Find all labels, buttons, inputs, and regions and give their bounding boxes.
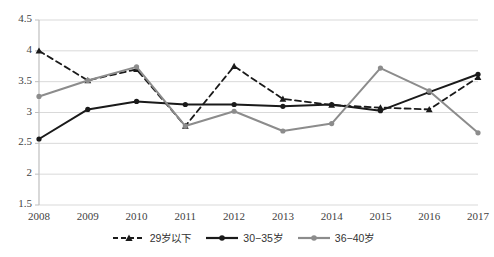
legend-item-1[interactable]: 29岁以下 — [112, 230, 192, 245]
x-tick-label-2009: 2009 — [62, 210, 114, 222]
data-point — [183, 102, 188, 107]
x-tick-label-2014: 2014 — [306, 210, 358, 222]
legend-swatch-1 — [112, 232, 146, 244]
legend-item-2[interactable]: 30−35岁 — [205, 230, 283, 245]
data-point — [85, 107, 90, 112]
legend-swatch-2 — [205, 232, 239, 244]
y-tick-label: 4 — [0, 43, 32, 55]
legend-marker — [311, 235, 317, 241]
data-point — [427, 88, 432, 93]
legend-label: 30−35岁 — [243, 230, 283, 245]
data-point — [378, 66, 383, 71]
y-tick-label: 4.5 — [0, 12, 32, 24]
legend-label: 29岁以下 — [150, 230, 192, 245]
data-point — [36, 136, 41, 141]
data-point — [280, 104, 285, 109]
x-tick-label-2017: 2017 — [452, 210, 494, 222]
data-point — [134, 99, 139, 104]
data-point — [475, 72, 480, 77]
data-point — [475, 130, 480, 135]
data-point — [329, 102, 334, 107]
data-point — [85, 78, 90, 83]
legend-item-3[interactable]: 36−40岁 — [297, 230, 375, 245]
y-tick-label: 1.5 — [0, 197, 32, 209]
data-point — [280, 128, 285, 133]
y-tick-label: 3 — [0, 105, 32, 117]
data-point — [329, 121, 334, 126]
x-tick-label-2008: 2008 — [13, 210, 65, 222]
x-tick-label-2013: 2013 — [257, 210, 309, 222]
x-tick-label-2012: 2012 — [208, 210, 260, 222]
legend-swatch-3 — [297, 232, 331, 244]
x-tick-label-2015: 2015 — [354, 210, 406, 222]
series-line-1 — [39, 51, 478, 126]
y-tick-label: 2 — [0, 166, 32, 178]
data-point — [183, 123, 188, 128]
legend-marker — [220, 235, 226, 241]
chart-legend: 29岁以下30−35岁36−40岁 — [0, 230, 486, 245]
y-tick-label: 2.5 — [0, 135, 32, 147]
data-point — [232, 109, 237, 114]
x-tick-label-2011: 2011 — [159, 210, 211, 222]
y-tick-label: 3.5 — [0, 74, 32, 86]
data-point — [231, 63, 238, 69]
data-point — [378, 108, 383, 113]
data-point — [36, 94, 41, 99]
x-tick-label-2016: 2016 — [403, 210, 455, 222]
data-point — [134, 64, 139, 69]
x-tick-label-2010: 2010 — [111, 210, 163, 222]
data-point — [232, 102, 237, 107]
legend-label: 36−40岁 — [335, 230, 375, 245]
